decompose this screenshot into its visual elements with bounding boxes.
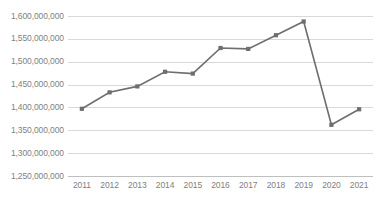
data-point-marker	[302, 19, 306, 23]
gridline	[68, 176, 373, 177]
y-axis-tick-label: 1,400,000,000	[0, 103, 64, 112]
data-point-marker	[218, 46, 222, 50]
series-markers	[80, 19, 361, 127]
data-point-marker	[107, 90, 111, 94]
data-point-marker	[163, 70, 167, 74]
data-point-marker	[246, 47, 250, 51]
y-axis-tick-label: 1,550,000,000	[0, 34, 64, 43]
y-axis-tick-label: 1,350,000,000	[0, 126, 64, 135]
series-line	[68, 16, 373, 176]
data-point-marker	[329, 123, 333, 127]
line-chart: 1,600,000,0001,550,000,0001,500,000,0001…	[0, 0, 381, 201]
data-point-marker	[274, 33, 278, 37]
y-axis-tick-labels: 1,600,000,0001,550,000,0001,500,000,0001…	[0, 16, 64, 176]
x-axis-tick-label: 2021	[339, 180, 379, 191]
x-axis-tick-labels: 2011201220132014201520162017201820192020…	[68, 180, 373, 194]
data-point-marker	[135, 84, 139, 88]
y-axis-tick-label: 1,500,000,000	[0, 57, 64, 66]
y-axis-tick-label: 1,450,000,000	[0, 80, 64, 89]
data-point-marker	[80, 107, 84, 111]
y-axis-tick-label: 1,250,000,000	[0, 172, 64, 181]
data-point-marker	[191, 72, 195, 76]
data-point-marker	[357, 107, 361, 111]
series-polyline	[82, 21, 359, 124]
plot-area	[68, 16, 373, 176]
y-axis-tick-label: 1,300,000,000	[0, 149, 64, 158]
y-axis-tick-label: 1,600,000,000	[0, 12, 64, 21]
